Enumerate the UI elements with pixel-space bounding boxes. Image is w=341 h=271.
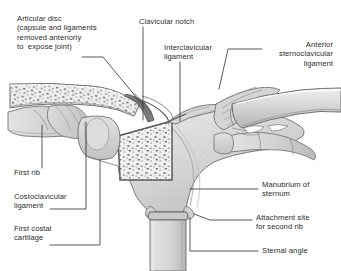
label-manubrium-of-sternum: Manubrium of sternum	[262, 180, 309, 199]
label-interclavicular-ligament: Interclavicular ligament	[164, 43, 212, 62]
sternal-angle	[148, 212, 188, 220]
first-costal-cartilage-left	[78, 116, 120, 160]
label-first-costal-cartilage: First costal cartilage	[14, 224, 52, 243]
label-costoclavicular-ligament: Costoclavicular ligament	[14, 192, 67, 211]
label-clavicular-notch: Clavicular notch	[139, 17, 194, 26]
label-articular-disc: Articular disc (capsule and ligaments re…	[17, 14, 97, 52]
label-anterior-sternoclavicular-ligament: Anterior sternoclavicular ligament	[279, 40, 333, 68]
body-of-sternum	[150, 220, 186, 271]
label-first-rib: First rib	[14, 168, 40, 177]
label-sternal-angle: Sternal angle	[262, 246, 308, 255]
label-attachment-site-second-rib: Attachment site for second rib	[256, 213, 309, 232]
first-costal-cartilage-right	[214, 133, 234, 154]
anatomy-figure: Articular disc (capsule and ligaments re…	[0, 0, 341, 271]
